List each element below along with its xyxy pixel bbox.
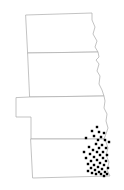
state-outlines-group: North DakotaSouth DakotaNebraskaKansas [16,13,110,178]
point-marker [87,163,89,165]
point-marker [97,166,99,168]
point-marker [88,146,90,148]
point-marker [106,173,108,175]
point-marker [99,154,101,156]
point-marker [90,167,92,169]
point-marker [103,132,105,134]
map-canvas: North DakotaSouth DakotaNebraskaKansas [0,0,124,190]
point-marker [91,130,93,132]
state-outline-south-dakota: South Dakota [28,52,104,97]
point-marker [98,131,100,133]
state-outline-north-dakota: North Dakota [26,13,98,53]
point-marker [96,126,98,128]
point-marker [98,147,100,149]
point-marker [85,137,87,139]
point-marker [100,136,102,138]
point-marker [96,151,98,153]
point-marker [92,149,94,151]
point-marker [90,160,92,162]
state-outline-nebraska: Nebraska [16,96,108,139]
point-marker [85,157,87,159]
map-figure: North DakotaSouth DakotaNebraskaKansas [0,0,124,190]
point-marker [108,141,110,143]
point-marker [105,147,107,149]
point-marker [89,153,91,155]
point-marker [93,156,95,158]
point-marker [101,144,103,146]
point-marker [83,151,85,153]
point-marker [104,139,106,141]
point-marker [103,164,105,166]
point-marker [97,139,99,141]
point-marker [101,168,103,170]
point-marker [87,170,89,172]
point-marker [95,143,97,145]
point-marker [105,160,107,162]
point-marker [93,135,95,137]
point-marker [102,157,104,159]
point-marker [106,154,108,156]
point-marker [91,172,93,174]
point-marker [102,151,104,153]
point-marker [93,164,95,166]
point-marker [103,175,105,177]
point-marker [95,173,97,175]
point-marker [96,159,98,161]
point-marker [99,162,101,164]
point-marker [107,167,109,169]
point-marker [94,169,96,171]
point-marker [100,173,102,175]
